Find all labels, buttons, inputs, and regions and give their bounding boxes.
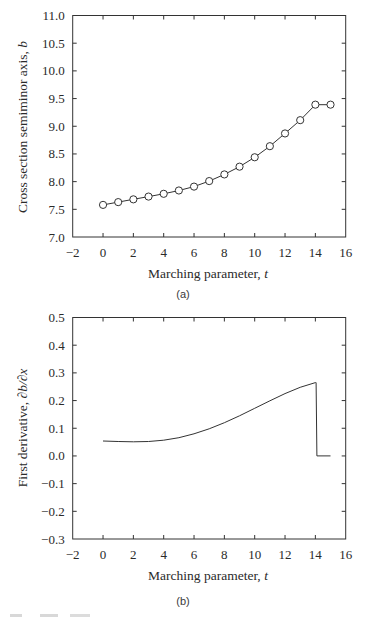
data-point-marker	[130, 196, 137, 203]
y-tick-label: 11.0	[42, 8, 64, 23]
figure: −20246810121416 7.07.58.08.59.09.510.010…	[0, 0, 368, 617]
y-tick-label: 0.0	[48, 448, 64, 463]
x-tick-label: −2	[66, 547, 80, 562]
data-point-marker	[206, 177, 213, 184]
y-tick-label: 0.5	[48, 310, 64, 325]
x-tick-label: 0	[100, 547, 107, 562]
data-point-marker	[221, 171, 228, 178]
y-axis-ticks-b: −0.3−0.2−0.10.00.10.20.30.40.5	[41, 310, 346, 547]
data-point-marker	[312, 101, 319, 108]
y-tick-label: 7.5	[48, 202, 64, 217]
x-tick-label: 2	[130, 547, 137, 562]
plot-frame-a	[73, 16, 346, 238]
y-axis-label-a: Cross section semiminor axis, b	[15, 41, 30, 213]
y-tick-label: 7.0	[48, 230, 64, 245]
y-tick-label: 9.5	[48, 91, 64, 106]
y-axis-label-b: First derivative, ∂b/∂x	[15, 369, 30, 488]
y-tick-label: −0.3	[41, 532, 65, 547]
y-tick-label: −0.1	[41, 476, 65, 491]
data-point-marker	[145, 193, 152, 200]
data-point-marker	[175, 187, 182, 194]
data-point-marker	[236, 163, 243, 170]
chart-panel-b: −20246810121416 −0.3−0.2−0.10.00.10.20.3…	[15, 310, 353, 607]
x-axis-ticks-b: −20246810121416	[66, 318, 353, 563]
data-point-marker	[190, 183, 197, 190]
x-tick-label: −2	[66, 245, 80, 260]
x-tick-label: 14	[309, 547, 323, 562]
x-tick-label: 4	[160, 547, 167, 562]
data-line-b	[103, 383, 331, 456]
x-tick-label: 14	[309, 245, 323, 260]
data-point-marker	[251, 154, 258, 161]
data-point-marker	[266, 143, 273, 150]
data-point-marker	[99, 201, 106, 208]
y-tick-label: 10.0	[42, 63, 65, 78]
chart-panel-a: −20246810121416 7.07.58.08.59.09.510.010…	[15, 8, 353, 300]
y-tick-label: 8.0	[48, 174, 64, 189]
y-tick-label: −0.2	[41, 504, 65, 519]
y-tick-label: 0.4	[48, 338, 65, 353]
x-tick-label: 12	[279, 547, 292, 562]
x-tick-label: 8	[221, 547, 228, 562]
y-tick-label: 0.3	[48, 365, 64, 380]
caption-b: (b)	[176, 595, 189, 607]
x-tick-label: 10	[248, 547, 261, 562]
caption-a: (a)	[176, 288, 189, 300]
y-tick-label: 8.5	[48, 146, 64, 161]
x-tick-label: 10	[248, 245, 261, 260]
y-tick-label: 0.2	[48, 393, 64, 408]
data-point-marker	[115, 199, 122, 206]
x-tick-label: 16	[339, 245, 353, 260]
plot-frame-b	[73, 318, 346, 540]
x-tick-label: 6	[191, 245, 198, 260]
data-point-marker	[327, 101, 334, 108]
data-point-marker	[281, 130, 288, 137]
x-axis-label-b: Marching parameter, t	[148, 568, 269, 583]
y-axis-ticks-a: 7.07.58.08.59.09.510.010.511.0	[42, 8, 346, 245]
data-point-marker	[297, 117, 304, 124]
data-point-marker	[160, 190, 167, 197]
x-axis-label-a: Marching parameter, t	[148, 266, 269, 281]
data-markers-a	[99, 101, 334, 208]
x-tick-label: 12	[279, 245, 292, 260]
x-axis-ticks-a: −20246810121416	[66, 16, 353, 261]
x-tick-label: 2	[130, 245, 137, 260]
x-tick-label: 6	[191, 547, 198, 562]
x-tick-label: 4	[160, 245, 167, 260]
y-tick-label: 9.0	[48, 119, 64, 134]
y-tick-label: 0.1	[48, 421, 64, 436]
y-tick-label: 10.5	[42, 36, 65, 51]
x-tick-label: 16	[339, 547, 353, 562]
x-tick-label: 0	[100, 245, 107, 260]
x-tick-label: 8	[221, 245, 228, 260]
